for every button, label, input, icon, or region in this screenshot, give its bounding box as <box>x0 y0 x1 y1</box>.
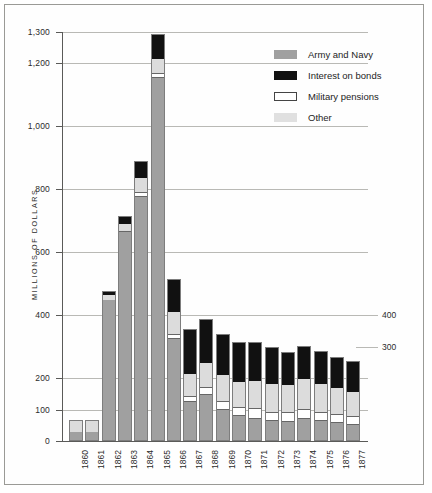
x-axis-label-1869: 1869 <box>227 450 237 469</box>
x-axis-label-1865: 1865 <box>162 450 172 469</box>
legend-item-pension[interactable]: Military pensions <box>274 86 381 107</box>
other-swatch-icon <box>274 113 297 122</box>
bar-1867[interactable] <box>183 329 197 441</box>
segment-military-pensions-1871 <box>248 408 262 419</box>
x-axis-label-1861: 1861 <box>96 450 106 469</box>
segment-army-navy-1877 <box>346 425 360 441</box>
segment-interest-on-bonds-1877 <box>346 361 360 392</box>
y-tick-400 <box>56 315 63 316</box>
bar-1871[interactable] <box>248 342 262 441</box>
segment-military-pensions-1868 <box>199 387 213 395</box>
bar-1869[interactable] <box>216 334 230 441</box>
segment-other-1866 <box>167 312 181 333</box>
segment-other-1868 <box>199 363 213 387</box>
segment-other-1870 <box>232 382 246 407</box>
segment-army-navy-1864 <box>134 197 148 441</box>
segment-military-pensions-1869 <box>216 401 230 410</box>
legend-item-label: Military pensions <box>308 91 379 102</box>
bar-1870[interactable] <box>232 342 246 441</box>
x-axis-label-1872: 1872 <box>276 450 286 469</box>
segment-interest-on-bonds-1861 <box>85 420 99 421</box>
gridline-800 <box>62 189 368 190</box>
bar-1866[interactable] <box>167 279 181 441</box>
right-axis-label-300: 300 <box>382 342 396 352</box>
segment-interest-on-bonds-1876 <box>330 357 344 389</box>
y-axis-label-100: 100 <box>6 405 50 415</box>
segment-army-navy-1860 <box>69 432 83 441</box>
legend-item-other[interactable]: Other <box>274 107 381 128</box>
pension-swatch-icon <box>274 92 297 101</box>
segment-interest-on-bonds-1865 <box>151 34 165 59</box>
legend-item-label: Other <box>308 112 332 123</box>
segment-army-navy-1862 <box>102 300 116 441</box>
segment-interest-on-bonds-1868 <box>199 319 213 363</box>
bar-1863[interactable] <box>118 216 132 441</box>
segment-other-1873 <box>281 385 295 413</box>
segment-army-navy-1865 <box>151 78 165 441</box>
segment-military-pensions-1867 <box>183 396 197 403</box>
bar-1872[interactable] <box>265 347 279 441</box>
bar-1862[interactable] <box>102 291 116 441</box>
segment-military-pensions-1872 <box>265 412 279 421</box>
legend-item-interest[interactable]: Interest on bonds <box>274 65 381 86</box>
segment-other-1872 <box>265 384 279 411</box>
segment-interest-on-bonds-1873 <box>281 352 295 385</box>
bar-1861[interactable] <box>85 420 99 441</box>
segment-other-1871 <box>248 381 262 408</box>
y-axis-label-200: 200 <box>6 373 50 383</box>
segment-army-navy-1873 <box>281 422 295 441</box>
y-tick-0 <box>56 441 63 442</box>
segment-other-1875 <box>314 384 328 412</box>
segment-other-1861 <box>85 421 99 431</box>
y-axis-label-1000: 1,000 <box>6 121 50 131</box>
x-axis-label-1870: 1870 <box>243 450 253 469</box>
y-tick-1300 <box>56 32 63 33</box>
legend-item-label: Interest on bonds <box>308 70 381 81</box>
segment-interest-on-bonds-1860 <box>69 420 83 421</box>
bar-1868[interactable] <box>199 319 213 441</box>
segment-army-navy-1866 <box>167 339 181 441</box>
segment-military-pensions-1864 <box>134 192 148 197</box>
right-axis-label-400: 400 <box>382 310 396 320</box>
segment-other-1862 <box>102 295 116 299</box>
segment-military-pensions-1874 <box>297 409 311 418</box>
x-axis-label-1867: 1867 <box>194 450 204 469</box>
segment-interest-on-bonds-1872 <box>265 347 279 384</box>
segment-army-navy-1863 <box>118 232 132 441</box>
segment-interest-on-bonds-1866 <box>167 279 181 312</box>
right-reference-line-300 <box>356 347 378 348</box>
bar-1864[interactable] <box>134 161 148 441</box>
x-axis-label-1864: 1864 <box>145 450 155 469</box>
y-tick-1000 <box>56 126 63 127</box>
segment-interest-on-bonds-1869 <box>216 334 230 375</box>
bar-1874[interactable] <box>297 346 311 441</box>
bar-1865[interactable] <box>151 34 165 441</box>
x-axis-label-1871: 1871 <box>259 450 269 469</box>
y-tick-1200 <box>56 63 63 64</box>
x-axis-line <box>62 441 368 442</box>
bar-1875[interactable] <box>314 351 328 441</box>
segment-army-navy-1875 <box>314 421 328 441</box>
y-axis-title: MILLIONS OF DOLLARS <box>30 189 39 300</box>
bar-1860[interactable] <box>69 420 83 441</box>
segment-army-navy-1872 <box>265 421 279 441</box>
y-axis-label-800: 800 <box>6 184 50 194</box>
bar-1877[interactable] <box>346 361 360 441</box>
x-axis-label-1862: 1862 <box>113 450 123 469</box>
army-swatch-icon <box>274 50 297 59</box>
segment-army-navy-1868 <box>199 395 213 441</box>
bar-1876[interactable] <box>330 357 344 441</box>
x-axis-label-1863: 1863 <box>129 450 139 469</box>
segment-military-pensions-1865 <box>151 73 165 78</box>
segment-other-1860 <box>69 421 83 432</box>
segment-military-pensions-1876 <box>330 414 344 423</box>
legend-item-army[interactable]: Army and Navy <box>274 44 381 65</box>
segment-other-1874 <box>297 379 311 409</box>
gridline-600 <box>62 252 368 253</box>
x-axis-label-1866: 1866 <box>178 450 188 469</box>
segment-other-1863 <box>118 224 132 231</box>
segment-other-1864 <box>134 178 148 192</box>
segment-army-navy-1869 <box>216 410 230 441</box>
y-tick-100 <box>56 410 63 411</box>
bar-1873[interactable] <box>281 352 295 441</box>
